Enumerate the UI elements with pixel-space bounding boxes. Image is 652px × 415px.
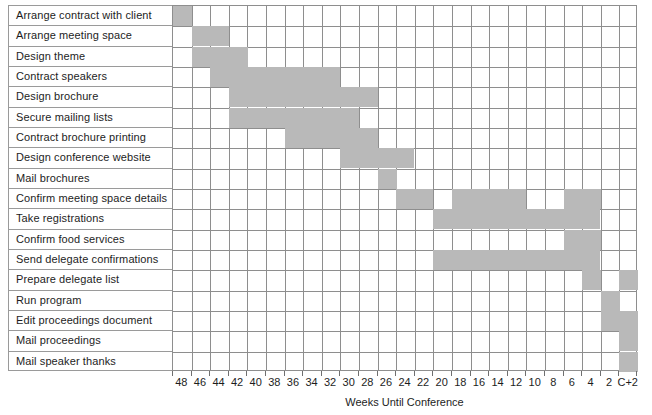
task-label: Prepare delegate list: [16, 274, 119, 285]
gantt-bar[interactable]: [192, 26, 229, 46]
gantt-chart: Arrange contract with clientArrange meet…: [0, 0, 652, 415]
axis-tick-label: 10: [529, 376, 541, 389]
task-label: Run program: [16, 295, 81, 306]
axis-tick-label: 14: [491, 376, 503, 389]
task-label: Send delegate confirmations: [16, 254, 158, 265]
task-row[interactable]: Prepare delegate list: [9, 270, 172, 290]
axis-tick-label: 4: [587, 376, 593, 389]
gantt-bar[interactable]: [601, 311, 638, 331]
task-label: Secure mailing lists: [16, 112, 113, 123]
axis-tick-label: 22: [417, 376, 429, 389]
gantt-bars-layer: [173, 6, 636, 370]
gantt-bar[interactable]: [173, 6, 192, 26]
gantt-bar[interactable]: [582, 270, 601, 290]
gantt-bar[interactable]: [192, 47, 248, 67]
task-row[interactable]: Secure mailing lists: [9, 108, 172, 128]
axis-tick-label: 44: [212, 376, 224, 389]
axis-tick-label: C+2: [617, 376, 638, 389]
axis-tick-label: 46: [194, 376, 206, 389]
axis-tick-label: 38: [268, 376, 280, 389]
task-label: Arrange contract with client: [16, 10, 152, 21]
axis-tick-label: 8: [550, 376, 556, 389]
task-row[interactable]: Edit proceedings document: [9, 311, 172, 331]
gantt-bar[interactable]: [378, 169, 397, 189]
axis-tick-label: 40: [250, 376, 262, 389]
axis-tick-label: 28: [361, 376, 373, 389]
task-row[interactable]: Arrange meeting space: [9, 26, 172, 46]
task-label: Mail proceedings: [16, 335, 101, 346]
task-row[interactable]: Mail brochures: [9, 169, 172, 189]
axis-tick-label: 16: [473, 376, 485, 389]
task-label: Mail brochures: [16, 173, 90, 184]
gantt-bar[interactable]: [452, 189, 526, 209]
gantt-bar[interactable]: [619, 331, 638, 351]
axis-tick-label: 36: [287, 376, 299, 389]
gantt-bar[interactable]: [564, 230, 601, 250]
axis-tick-label: 30: [343, 376, 355, 389]
gantt-plot-area: [172, 5, 637, 371]
task-row[interactable]: Mail speaker thanks: [9, 352, 172, 372]
task-label: Take registrations: [16, 213, 104, 224]
task-row[interactable]: Confirm meeting space details: [9, 189, 172, 209]
task-row[interactable]: Mail proceedings: [9, 331, 172, 351]
task-label: Contract brochure printing: [16, 132, 146, 143]
task-row[interactable]: Contract brochure printing: [9, 128, 172, 148]
task-label: Contract speakers: [16, 71, 107, 82]
gantt-bar[interactable]: [285, 128, 378, 148]
task-label: Design brochure: [16, 91, 98, 102]
gantt-bar[interactable]: [433, 209, 600, 229]
task-row[interactable]: Run program: [9, 291, 172, 311]
gantt-bar[interactable]: [564, 189, 601, 209]
x-axis-title: Weeks Until Conference: [172, 396, 637, 408]
axis-tick-label: 18: [454, 376, 466, 389]
gantt-bar[interactable]: [433, 250, 600, 270]
task-label: Design theme: [16, 51, 85, 62]
gantt-bar[interactable]: [619, 270, 638, 290]
task-label-column: Arrange contract with clientArrange meet…: [8, 5, 172, 371]
task-label: Confirm food services: [16, 234, 125, 245]
axis-tick-label: 48: [175, 376, 187, 389]
task-label: Mail speaker thanks: [16, 356, 116, 367]
gantt-bar[interactable]: [229, 87, 378, 107]
task-label: Arrange meeting space: [16, 30, 132, 41]
gantt-bar[interactable]: [229, 108, 359, 128]
gantt-bar[interactable]: [396, 189, 433, 209]
task-label: Design conference website: [16, 152, 151, 163]
task-row[interactable]: Send delegate confirmations: [9, 250, 172, 270]
gantt-bar[interactable]: [601, 291, 620, 311]
task-row[interactable]: Design conference website: [9, 148, 172, 168]
task-row[interactable]: Confirm food services: [9, 230, 172, 250]
task-row[interactable]: Design theme: [9, 47, 172, 67]
axis-tick-label: 2: [606, 376, 612, 389]
gantt-bar[interactable]: [619, 352, 638, 372]
task-row[interactable]: Contract speakers: [9, 67, 172, 87]
x-axis-tick-labels: 4846444240383634323028262422201816141210…: [172, 376, 637, 391]
gantt-bar[interactable]: [210, 67, 340, 87]
axis-tick-label: 34: [305, 376, 317, 389]
task-label: Edit proceedings document: [16, 315, 152, 326]
axis-tick-label: 24: [398, 376, 410, 389]
gantt-bar[interactable]: [340, 148, 414, 168]
axis-tick-label: 26: [380, 376, 392, 389]
task-row[interactable]: Design brochure: [9, 87, 172, 107]
axis-tick-label: 12: [510, 376, 522, 389]
task-label: Confirm meeting space details: [16, 193, 167, 204]
task-row[interactable]: Take registrations: [9, 209, 172, 229]
axis-tick-label: 42: [231, 376, 243, 389]
axis-tick-label: 20: [436, 376, 448, 389]
axis-tick-label: 6: [569, 376, 575, 389]
axis-tick-label: 32: [324, 376, 336, 389]
task-row[interactable]: Arrange contract with client: [9, 6, 172, 26]
